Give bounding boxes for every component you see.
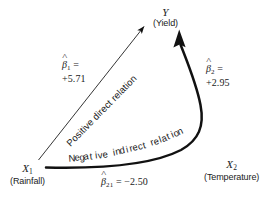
- indirect-relation-letter: t: [89, 150, 93, 161]
- beta1-subscript: 1: [67, 64, 71, 72]
- coefficient-beta21: β21 = −2.50: [101, 176, 148, 190]
- coefficient-beta2: β2 = +2.95: [206, 63, 230, 88]
- coefficient-beta1: β1 = +5.71: [62, 59, 86, 84]
- beta2-equals: =: [217, 63, 223, 74]
- coefficient-beta1-head: β1 =: [62, 59, 86, 73]
- beta2-symbol: β: [206, 63, 211, 74]
- beta1-symbol: β: [62, 59, 67, 70]
- node-x1: X1 (Rainfall): [10, 162, 45, 186]
- beta2-subscript: 2: [211, 68, 215, 76]
- coefficient-beta2-value: +2.95: [206, 77, 230, 88]
- node-y: Y (Yield): [153, 6, 178, 28]
- node-x2-description: (Temperature): [204, 172, 259, 182]
- beta1-equals: =: [73, 59, 79, 70]
- node-y-description: (Yield): [153, 18, 178, 28]
- node-x1-subscript: 1: [29, 167, 33, 176]
- node-x2-subscript: 2: [233, 163, 237, 172]
- beta21-symbol: β: [101, 176, 106, 187]
- node-x2-name: X2: [204, 158, 259, 172]
- beta21-subscript: 21: [106, 181, 113, 189]
- coefficient-beta2-head: β2 =: [206, 63, 230, 77]
- beta21-equals-value: = −2.50: [116, 176, 148, 187]
- direct-relation-arrow: [39, 27, 145, 161]
- node-x2: X2 (Temperature): [204, 158, 259, 182]
- node-x1-description: (Rainfall): [10, 176, 45, 186]
- node-x1-name: X1: [10, 162, 45, 176]
- node-y-name: Y: [153, 6, 178, 18]
- path-diagram: Y (Yield) X1 (Rainfall) X2 (Temperature)…: [0, 0, 275, 197]
- coefficient-beta1-value: +5.71: [62, 73, 86, 84]
